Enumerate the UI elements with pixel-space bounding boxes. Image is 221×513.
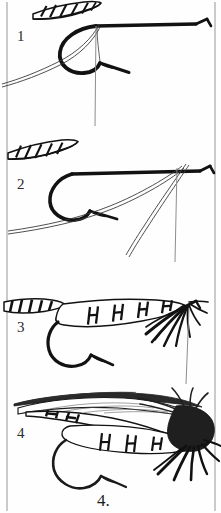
panel-2-artwork [8, 140, 214, 262]
barred-tail-feather [4, 299, 65, 313]
panel-4-label: 4 [17, 426, 25, 441]
panel-1-label: 1 [17, 29, 25, 44]
panel-4-artwork [14, 388, 221, 488]
hook-point [101, 476, 126, 487]
ribbed-body [56, 299, 186, 326]
hook-bend [50, 174, 90, 220]
illustration-plate: 1 2 3 4 4. [0, 0, 221, 513]
hook-eye [200, 166, 210, 171]
barred-tail-feather [33, 2, 101, 20]
panel-1-artwork [2, 2, 211, 126]
tinsel-strand-diagonal [8, 164, 189, 257]
bobbin-thread-hanging [95, 26, 96, 126]
panel-3-artwork [4, 299, 208, 384]
hook-eye [196, 19, 207, 24]
panel-3-label: 3 [17, 320, 25, 335]
panel-2-label: 2 [17, 177, 25, 192]
figure-caption: 4. [97, 492, 110, 509]
hook-point [91, 355, 113, 365]
fly-tying-sequence-artwork [0, 0, 221, 513]
hook [50, 166, 214, 220]
hook-bend [48, 322, 91, 366]
bobbin-thread-hanging [175, 168, 177, 262]
barred-tail-feather [8, 140, 78, 159]
